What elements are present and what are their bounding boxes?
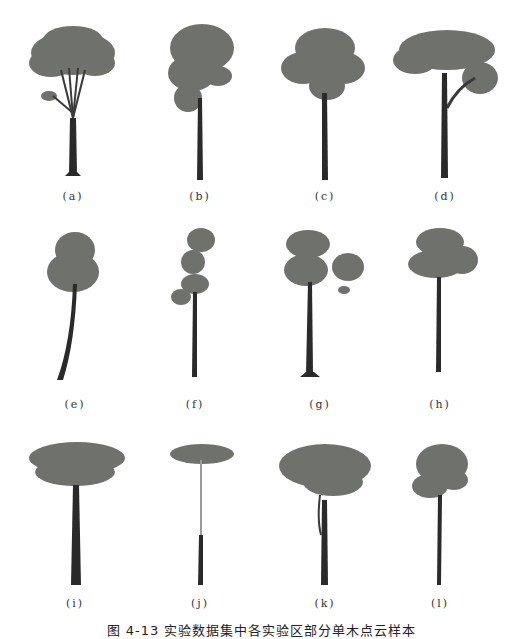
panel-l-label: (l) xyxy=(380,597,500,610)
figure-caption: 图 4-13 实验数据集中各实验区部分单木点云样本 xyxy=(0,620,523,639)
panel-a-label: (a) xyxy=(13,190,133,203)
panel-b-label: (b) xyxy=(140,190,260,203)
panel-l-tree xyxy=(380,440,500,590)
panel-h-label: (h) xyxy=(380,398,500,411)
panel-f-tree xyxy=(135,222,255,382)
panel-h-tree xyxy=(380,222,500,382)
panel-j-tree xyxy=(140,440,260,590)
panel-c-tree xyxy=(265,18,385,183)
panel-g-label: (g) xyxy=(260,398,380,411)
panel-i-label: (i) xyxy=(15,597,135,610)
panel-k-tree xyxy=(265,440,385,590)
panel-b-tree xyxy=(140,18,260,183)
panel-e-tree xyxy=(15,222,135,382)
panel-c-label: (c) xyxy=(265,190,385,203)
panel-k-label: (k) xyxy=(265,597,385,610)
panel-a-tree xyxy=(13,18,133,178)
panel-f-label: (f) xyxy=(135,398,255,411)
panel-j-label: (j) xyxy=(140,597,260,610)
panel-i-tree xyxy=(15,440,135,590)
panel-g-tree xyxy=(260,222,380,382)
panel-e-label: (e) xyxy=(15,398,135,411)
panel-d-label: (d) xyxy=(385,190,505,203)
panel-d-tree xyxy=(385,18,505,183)
